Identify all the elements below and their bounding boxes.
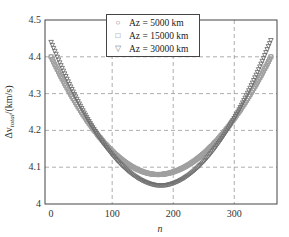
legend-item: ○ Az = 5000 km: [107, 16, 199, 29]
y-axis-ticks: 44.14.24.34.44.5: [29, 14, 42, 209]
legend-item: □ Az = 15000 km: [107, 29, 199, 42]
data-series: [49, 39, 273, 188]
triangle-marker-icon: ▽: [107, 44, 129, 53]
y-tick-label: 4.4: [29, 51, 42, 62]
y-tick-label: 4.3: [29, 88, 42, 99]
x-axis-ticks: 0100200300: [49, 208, 242, 219]
legend: ○ Az = 5000 km □ Az = 15000 km ▽ Az = 30…: [106, 14, 200, 57]
y-tick-label: 4: [36, 198, 41, 209]
y-axis-label: Δvtotal/(km/s): [3, 85, 16, 138]
x-tick-label: 0: [49, 208, 54, 219]
legend-label: Az = 5000 km: [129, 18, 184, 28]
y-tick-label: 4.5: [29, 14, 42, 25]
x-tick-label: 300: [227, 208, 242, 219]
legend-item: ▽ Az = 30000 km: [107, 42, 199, 55]
y-tick-label: 4.2: [29, 124, 42, 135]
legend-label: Az = 15000 km: [129, 31, 188, 41]
circle-marker-icon: ○: [107, 18, 129, 27]
x-tick-label: 100: [105, 208, 120, 219]
legend-label: Az = 30000 km: [129, 44, 188, 54]
x-tick-label: 200: [166, 208, 181, 219]
x-axis-label: n: [158, 223, 163, 234]
y-tick-label: 4.1: [29, 161, 42, 172]
square-marker-icon: □: [107, 31, 129, 40]
